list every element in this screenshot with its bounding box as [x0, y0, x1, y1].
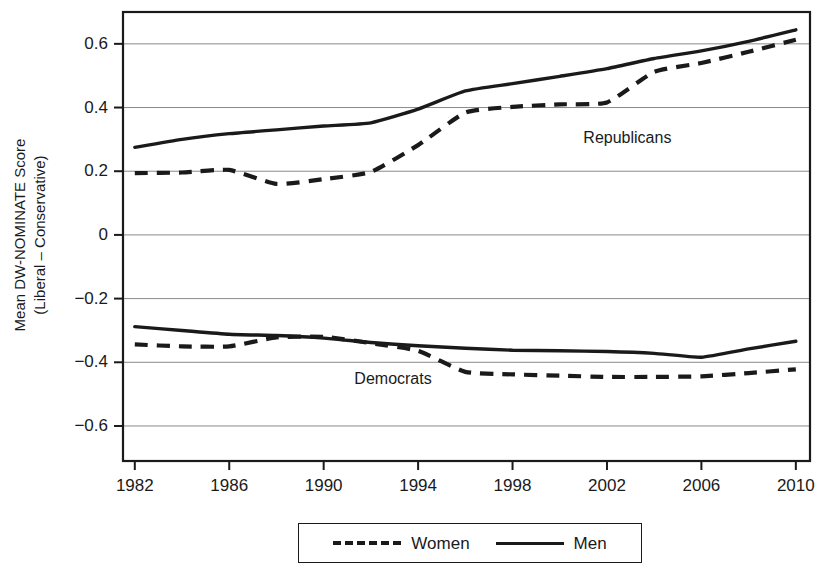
legend-label-men: Men [574, 535, 607, 552]
legend-entry-women: Women [333, 535, 469, 552]
annotation-democrats: Democrats [354, 371, 431, 387]
x-tick-label: 1982 [105, 477, 165, 494]
series-line-democratic-men [135, 327, 796, 358]
x-tick-label: 1986 [199, 477, 259, 494]
series-line-republican-men [135, 30, 796, 148]
plot-frame [123, 12, 810, 461]
y-tick-label: −0.6 [53, 417, 108, 434]
chart-figure: Mean DW-NOMINATE Score (Liberal – Conser… [0, 0, 823, 576]
x-tick-label: 2010 [766, 477, 823, 494]
legend: Women Men [298, 523, 642, 563]
y-tick-label: 0.6 [53, 35, 108, 52]
legend-label-women: Women [411, 535, 469, 552]
legend-entry-men: Men [496, 535, 607, 552]
x-tick-label: 2006 [671, 477, 731, 494]
y-tick-label: −0.2 [53, 290, 108, 307]
annotation-republicans: Republicans [583, 130, 671, 146]
solid-line-icon [496, 542, 564, 545]
x-tick-label: 2002 [577, 477, 637, 494]
x-tick-label: 1998 [483, 477, 543, 494]
x-tick-label: 1990 [294, 477, 354, 494]
y-tick-label: −0.4 [53, 353, 108, 370]
y-tick-label: 0.4 [53, 99, 108, 116]
y-tick-label: 0.2 [53, 162, 108, 179]
dashed-line-icon [333, 541, 401, 545]
y-tick-label: 0 [53, 226, 108, 243]
series-line-republican-women [135, 40, 796, 184]
x-tick-label: 1994 [388, 477, 448, 494]
